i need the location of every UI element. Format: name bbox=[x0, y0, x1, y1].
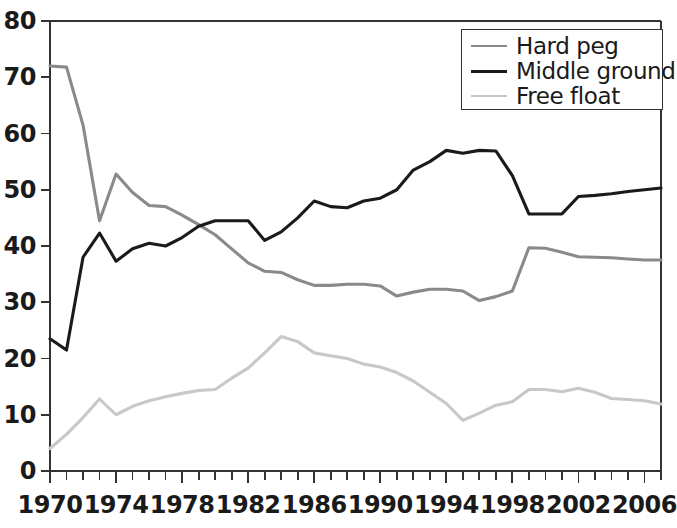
y-axis-tick-label: 20 bbox=[4, 345, 36, 373]
y-axis-tick-label: 0 bbox=[20, 457, 36, 485]
x-axis-tick-label: 1978 bbox=[150, 491, 215, 519]
x-axis-tick-label: 1998 bbox=[480, 491, 545, 519]
legend-item-middle-ground: Middle ground bbox=[471, 58, 675, 84]
x-axis-tick-label: 1990 bbox=[348, 491, 413, 519]
series-line-middle-ground bbox=[50, 150, 661, 350]
y-axis-tick-label: 50 bbox=[4, 176, 36, 204]
x-axis-tick-label: 1982 bbox=[216, 491, 281, 519]
data-series-group bbox=[50, 66, 661, 449]
chart-legend: Hard pegMiddle groundFree float bbox=[461, 29, 663, 110]
x-axis-tick-label: 2002 bbox=[546, 491, 611, 519]
x-axis-tick-label: 1970 bbox=[18, 491, 83, 519]
legend-item-label: Middle ground bbox=[516, 60, 675, 83]
y-axis-tick-label: 80 bbox=[4, 7, 36, 35]
legend-item-hard-peg: Hard peg bbox=[471, 33, 619, 59]
legend-item-free-float: Free float bbox=[471, 83, 620, 109]
y-axis-tick-label: 30 bbox=[4, 288, 36, 316]
legend-swatch-icon bbox=[471, 95, 507, 97]
legend-item-label: Free float bbox=[516, 85, 620, 108]
y-axis-tick-label: 70 bbox=[4, 63, 36, 91]
y-axis-tick-label: 60 bbox=[4, 120, 36, 148]
y-axis-tick-label: 40 bbox=[4, 232, 36, 260]
y-axis-tick-label: 10 bbox=[4, 401, 36, 429]
x-axis-tick-label: 1974 bbox=[84, 491, 149, 519]
legend-swatch-icon bbox=[471, 70, 507, 73]
x-axis-tick-label: 1994 bbox=[414, 491, 479, 519]
x-axis-tick-label: 2006 bbox=[612, 491, 677, 519]
legend-item-label: Hard peg bbox=[516, 35, 619, 58]
x-axis-tick-label: 1986 bbox=[282, 491, 347, 519]
series-line-free-float bbox=[50, 337, 661, 449]
legend-swatch-icon bbox=[471, 45, 507, 47]
